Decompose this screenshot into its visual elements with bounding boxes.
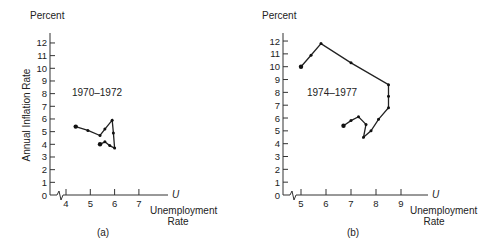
x-axis-symbol: U: [432, 189, 440, 200]
data-point: [341, 124, 345, 128]
x-axis-symbol: U: [172, 189, 180, 200]
y-tick-label: 11: [37, 50, 47, 61]
y-tick-label: 1: [42, 177, 47, 188]
y-tick-label: 9: [275, 74, 280, 85]
data-point: [98, 142, 102, 146]
data-point: [350, 119, 353, 122]
x-axis-label-line2: Rate: [423, 216, 445, 227]
x-axis-label-line2: Rate: [167, 216, 189, 227]
x-tick-label: 9: [398, 198, 403, 209]
panel-label: (b): [347, 227, 359, 238]
y-tick-label: 8: [275, 87, 280, 98]
y-tick-label: 1: [275, 177, 280, 188]
data-line: [76, 120, 115, 148]
data-point: [350, 61, 353, 64]
y-tick-label: 10: [269, 61, 280, 72]
x-tick-label: 6: [323, 198, 328, 209]
x-tick-label: 5: [298, 198, 303, 209]
figure-canvas: 01234567891011124567UUnemploymentRatePer…: [0, 0, 495, 252]
y-tick-label: 4: [275, 138, 280, 149]
period-annotation: 1974–1977: [307, 87, 357, 98]
data-point: [357, 115, 360, 118]
y-tick-label: 2: [42, 164, 47, 175]
x-tick-label: 7: [348, 198, 353, 209]
data-point: [387, 95, 390, 98]
x-axis-line-with-break: [283, 191, 428, 200]
data-point: [74, 124, 78, 128]
data-point: [113, 147, 116, 150]
data-point: [111, 119, 114, 122]
period-annotation: 1970–1972: [72, 87, 122, 98]
y-tick-label: 7: [275, 100, 280, 111]
y-tick-label: 3: [42, 151, 47, 162]
data-point: [99, 134, 102, 137]
x-axis-label-line1: Unemployment: [150, 205, 217, 216]
y-tick-label: 12: [36, 37, 47, 48]
data-point: [370, 129, 373, 132]
y-tick-label: 9: [42, 75, 47, 86]
y-axis-label: Annual Inflation Rate: [21, 68, 32, 161]
y-tick-label: 5: [42, 126, 47, 137]
data-point: [310, 54, 313, 57]
panel-label: (a): [97, 227, 109, 238]
y-tick-label: 2: [275, 164, 280, 175]
data-point: [103, 140, 106, 143]
chart-panel-b: 012345678910111256789UUnemploymentRatePe…: [262, 10, 477, 238]
y-tick-label: 0: [275, 190, 280, 201]
y-tick-label: 12: [269, 36, 280, 47]
y-tick-label: 6: [275, 113, 280, 124]
x-tick-label: 7: [136, 198, 141, 209]
data-point: [377, 118, 380, 121]
x-tick-label: 5: [88, 198, 93, 209]
y-tick-label: 11: [270, 48, 280, 59]
data-point: [299, 65, 303, 69]
x-axis-label-line1: Unemployment: [410, 205, 477, 216]
y-tick-label: 5: [275, 125, 280, 136]
y-unit-label: Percent: [30, 10, 65, 21]
y-tick-label: 4: [42, 139, 47, 150]
y-tick-label: 6: [42, 113, 47, 124]
y-tick-label: 8: [42, 88, 47, 99]
data-point: [112, 131, 115, 134]
data-point: [365, 123, 368, 126]
y-tick-label: 0: [42, 190, 47, 201]
y-tick-label: 7: [42, 101, 47, 112]
data-point: [103, 128, 106, 131]
y-tick-label: 10: [36, 63, 47, 74]
x-tick-label: 4: [63, 198, 68, 209]
data-point: [320, 42, 323, 45]
data-point: [86, 129, 89, 132]
y-unit-label: Percent: [262, 10, 297, 21]
x-tick-label: 8: [373, 198, 378, 209]
data-point: [387, 106, 390, 109]
chart-panel-a: 01234567891011124567UUnemploymentRatePer…: [21, 10, 217, 238]
data-point: [362, 136, 365, 139]
data-point: [108, 144, 111, 147]
y-tick-label: 3: [275, 151, 280, 162]
data-point: [387, 83, 390, 86]
x-tick-label: 6: [112, 198, 117, 209]
